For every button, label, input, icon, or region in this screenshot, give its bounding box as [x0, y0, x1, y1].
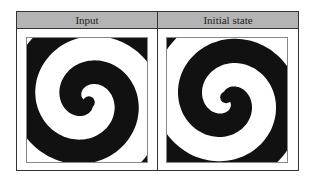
- initial-state-spiral-image: [166, 37, 288, 163]
- input-spiral-image: [26, 37, 148, 163]
- column-divider: [157, 12, 158, 170]
- header-initial-state: Initial state: [158, 12, 298, 28]
- figure-table: Input Initial state: [16, 11, 299, 171]
- spiral-input: [27, 38, 147, 162]
- spiral-initial-state: [167, 38, 287, 162]
- header-input: Input: [17, 12, 157, 28]
